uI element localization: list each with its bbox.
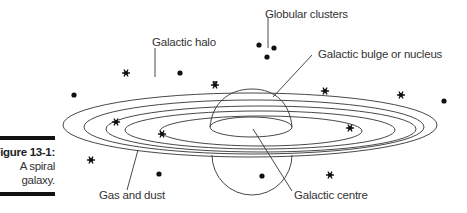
label-galactic-centre: Galactic centre bbox=[294, 189, 368, 201]
globular-cluster-dot bbox=[259, 173, 264, 178]
leader-galactic-bulge bbox=[273, 55, 312, 97]
star-icon bbox=[88, 157, 95, 163]
star-icon bbox=[123, 70, 130, 76]
globular-cluster-dot bbox=[256, 42, 261, 47]
star-icon bbox=[347, 125, 354, 131]
star-icon bbox=[327, 172, 334, 178]
globular-cluster-dot bbox=[441, 98, 446, 103]
globular-cluster-dot bbox=[177, 70, 182, 75]
star-icon bbox=[322, 88, 329, 94]
label-gas-and-dust: Gas and dust bbox=[99, 189, 166, 201]
disk-ring-4 bbox=[125, 111, 395, 149]
bulge-dome bbox=[210, 89, 292, 127]
label-galactic-bulge: Galactic bulge or nucleus bbox=[318, 48, 443, 60]
star-icon bbox=[212, 82, 219, 88]
label-globular-clusters: Globular clusters bbox=[265, 8, 348, 20]
star-icon bbox=[159, 131, 166, 137]
core-ellipse bbox=[210, 117, 292, 137]
spiral-galaxy-diagram: Globular clusters Galactic halo Galactic… bbox=[0, 0, 467, 213]
leader-galactic-centre bbox=[253, 129, 292, 191]
bulge-lower-arc bbox=[212, 155, 292, 195]
star-icon bbox=[398, 92, 405, 98]
globular-cluster-dot bbox=[156, 171, 161, 176]
label-galactic-halo: Galactic halo bbox=[152, 36, 216, 48]
globular-cluster-dot bbox=[71, 92, 76, 97]
leader-gas-and-dust bbox=[127, 150, 138, 190]
disk-ring-outer bbox=[63, 93, 437, 157]
globular-cluster-dot bbox=[271, 45, 276, 50]
disk-ring-3 bbox=[106, 106, 416, 152]
globular-cluster-dot bbox=[264, 54, 269, 59]
